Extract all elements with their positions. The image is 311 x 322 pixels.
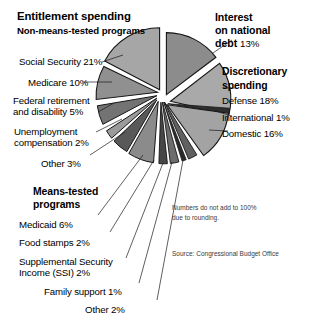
entitlement-spending-title: Entitlement spending — [17, 10, 131, 23]
means-tested-title-line1: Means-tested — [33, 186, 98, 198]
label-federal-retirement-line2: and disability 5% — [13, 106, 83, 117]
interest-title-line2: on national — [215, 24, 270, 37]
interest-title-line3: debt 13% — [215, 37, 259, 50]
label-unemployment-line1: Unemployment — [14, 126, 77, 137]
leader-ssi — [126, 163, 163, 258]
label-ssi-line1: Supplemental Security — [19, 256, 113, 267]
leader-other-means — [157, 160, 183, 300]
label-medicaid: Medicaid 6% — [19, 219, 73, 230]
label-food-stamps: Food stamps 2% — [19, 237, 90, 248]
label-family-support: Family support 1% — [44, 286, 122, 297]
label-other-non-means-tested: Other 3% — [41, 158, 81, 169]
discretionary-title-line1: Discretionary — [222, 66, 287, 78]
pie-slices — [96, 28, 231, 164]
entitlement-spending-subtitle: Non-means-tested programs — [17, 25, 145, 36]
discretionary-title-line2: spending — [222, 80, 267, 92]
label-international: International 1% — [222, 112, 290, 123]
label-unemployment-line2: compensation 2% — [14, 137, 89, 148]
label-federal-retirement-line1: Federal retirement — [13, 95, 89, 106]
leader-medicaid — [98, 155, 143, 215]
label-other-means-tested: Other 2% — [85, 304, 125, 315]
interest-title-line1: Interest — [215, 11, 252, 24]
leader-family-support — [139, 162, 172, 283]
label-social-security: Social Security 21% — [19, 56, 102, 67]
interest-value: 13% — [237, 38, 259, 49]
label-defense: Defense 18% — [222, 95, 279, 106]
label-medicare: Medicare 10% — [28, 77, 88, 88]
leader-food-stamps — [110, 160, 154, 232]
pie-chart-figure: Entitlement spending Non-means-tested pr… — [0, 0, 311, 322]
label-domestic: Domestic 16% — [222, 128, 283, 139]
rounding-note-line2: due to rounding. — [172, 213, 219, 222]
label-ssi-line2: Income (SSI) 2% — [19, 267, 90, 278]
source-note: Source: Congressional Budget Office — [172, 249, 279, 258]
means-tested-title-line2: programs — [33, 199, 80, 211]
interest-debt-word: debt — [215, 37, 237, 49]
rounding-note-line1: Numbers do not add to 100% — [172, 203, 257, 212]
